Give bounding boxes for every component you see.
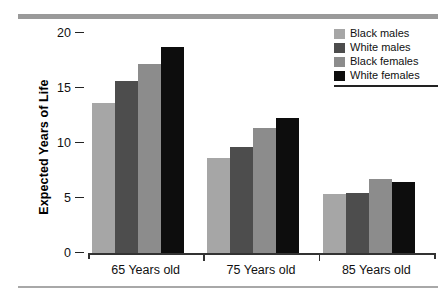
y-axis-tick-mark bbox=[75, 252, 84, 253]
y-axis-tick-label: 5 bbox=[64, 191, 71, 205]
legend-entry-label: Black males bbox=[350, 28, 409, 39]
y-axis-tick-label: 0 bbox=[64, 246, 71, 260]
x-axis-label: 65 Years old bbox=[88, 263, 203, 277]
legend-divider-rule bbox=[334, 85, 438, 87]
y-axis-tick-label: 10 bbox=[57, 136, 71, 150]
legend-color-swatch bbox=[334, 43, 345, 53]
legend-entry-label: Black females bbox=[350, 56, 418, 67]
legend-color-swatch bbox=[334, 57, 345, 67]
legend-entry-label: White males bbox=[350, 42, 411, 53]
bar[interactable] bbox=[276, 118, 299, 253]
bar[interactable] bbox=[346, 193, 369, 254]
x-axis-tick-mark bbox=[203, 253, 205, 261]
bar[interactable] bbox=[161, 47, 184, 253]
bar[interactable] bbox=[92, 103, 115, 253]
bar-group bbox=[207, 33, 299, 253]
legend-color-swatch bbox=[334, 29, 345, 39]
y-axis-tick-label: 20 bbox=[57, 26, 71, 40]
bar[interactable] bbox=[207, 158, 230, 253]
x-axis-label: 75 Years old bbox=[203, 263, 318, 277]
y-axis-tick: 0 bbox=[42, 246, 84, 260]
bar[interactable] bbox=[369, 179, 392, 253]
y-axis-tick-mark bbox=[75, 32, 84, 33]
bar[interactable] bbox=[115, 81, 138, 253]
bar-group-bars bbox=[207, 33, 299, 253]
bar-group-bars bbox=[92, 33, 184, 253]
y-axis-tick-label: 15 bbox=[57, 81, 71, 95]
x-axis-label: 85 Years old bbox=[319, 263, 434, 277]
bar[interactable] bbox=[392, 182, 415, 254]
y-axis-tick-mark bbox=[75, 197, 84, 198]
bar[interactable] bbox=[323, 194, 346, 253]
legend-entry-label: White females bbox=[350, 70, 420, 81]
y-axis-tick: 20 bbox=[42, 26, 84, 40]
x-axis-baseline bbox=[88, 253, 434, 255]
y-axis-tick-mark bbox=[75, 87, 84, 88]
legend-color-swatch bbox=[334, 71, 345, 81]
legend-entries: Black malesWhite malesBlack femalesWhite… bbox=[334, 27, 440, 82]
y-axis-tick: 10 bbox=[42, 136, 84, 150]
x-axis-tick-mark bbox=[434, 253, 436, 259]
legend-entry[interactable]: White females bbox=[334, 69, 440, 82]
bar[interactable] bbox=[253, 128, 276, 253]
legend-entry[interactable]: Black females bbox=[334, 55, 440, 68]
bottom-divider-rule bbox=[18, 286, 438, 288]
chart-figure: Expected Years of Life 20151050 65 Years… bbox=[0, 0, 448, 302]
bar[interactable] bbox=[138, 64, 161, 253]
x-axis-tick-mark bbox=[319, 253, 321, 261]
legend-entry[interactable]: White males bbox=[334, 41, 440, 54]
y-axis-tick: 5 bbox=[42, 191, 84, 205]
legend-entry[interactable]: Black males bbox=[334, 27, 440, 40]
bar-group bbox=[92, 33, 184, 253]
bar[interactable] bbox=[230, 147, 253, 253]
y-axis-tick-mark bbox=[75, 142, 84, 143]
chart-legend: Black malesWhite malesBlack femalesWhite… bbox=[334, 27, 440, 87]
y-axis-tick: 15 bbox=[42, 81, 84, 95]
x-axis-tick-mark bbox=[88, 253, 90, 259]
top-divider-rule bbox=[18, 14, 438, 19]
